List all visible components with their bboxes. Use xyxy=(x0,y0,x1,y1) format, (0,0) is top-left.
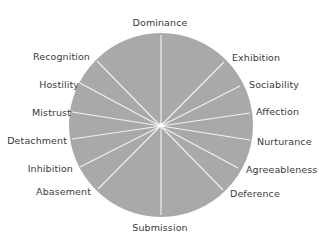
circumplex-diagram xyxy=(0,0,319,239)
label-deference: Deference xyxy=(230,188,280,199)
label-inhibition: Inhibition xyxy=(28,163,73,174)
label-nurturance: Nurturance xyxy=(257,136,312,147)
label-exhibition: Exhibition xyxy=(232,52,280,63)
label-agreeableness: Agreeableness xyxy=(246,164,317,175)
label-abasement: Abasement xyxy=(36,186,91,197)
label-mistrust: Mistrust xyxy=(32,107,71,118)
center-point xyxy=(159,123,163,127)
label-hostility: Hostility xyxy=(39,79,79,90)
label-detachment: Detachment xyxy=(7,135,67,146)
label-affection: Affection xyxy=(256,106,299,117)
label-submission: Submission xyxy=(132,222,187,233)
label-recognition: Recognition xyxy=(33,51,90,62)
label-dominance: Dominance xyxy=(133,17,188,28)
label-sociability: Sociability xyxy=(249,79,299,90)
